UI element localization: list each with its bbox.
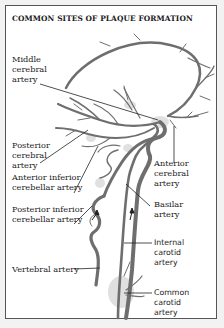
label-line: cerebral <box>12 64 47 74</box>
label-line: carotid <box>154 248 184 258</box>
label-line: artery <box>12 160 50 170</box>
label-basilar-artery: Basilar artery <box>154 199 183 219</box>
label-line: Vertebral artery <box>12 264 79 274</box>
label-line: artery <box>154 258 184 268</box>
label-line: carotid <box>154 298 189 308</box>
label-line: artery <box>12 74 47 84</box>
label-line: artery <box>154 209 183 219</box>
label-internal-carotid-artery: Internal carotid artery <box>154 238 184 268</box>
label-line: Middle <box>12 54 47 64</box>
label-posterior-cerebral-artery: Posterior cerebral artery <box>12 140 50 170</box>
label-line: Posterior inferior <box>12 204 84 214</box>
label-line: Common <box>154 288 189 298</box>
label-line: cerebellar artery <box>12 214 84 224</box>
label-line: Posterior <box>12 140 50 150</box>
label-line: Anterior <box>154 158 189 168</box>
label-line: Internal <box>154 238 184 248</box>
label-line: artery <box>154 178 189 188</box>
label-posterior-inferior-cerebellar-artery: Posterior inferior cerebellar artery <box>12 204 84 224</box>
label-line: artery <box>154 308 189 318</box>
label-anterior-inferior-cerebellar-artery: Anterior inferior cerebellar artery <box>12 172 82 192</box>
label-line: Basilar <box>154 199 183 209</box>
label-common-carotid-artery: Common carotid artery <box>154 288 189 318</box>
label-anterior-cerebral-artery: Anterior cerebral artery <box>154 158 189 188</box>
label-line: cerebellar artery <box>12 182 82 192</box>
label-line: cerebral <box>12 150 50 160</box>
label-vertebral-artery: Vertebral artery <box>12 264 79 274</box>
label-line: Anterior inferior <box>12 172 82 182</box>
label-middle-cerebral-artery: Middle cerebral artery <box>12 54 47 84</box>
label-line: cerebral <box>154 168 189 178</box>
